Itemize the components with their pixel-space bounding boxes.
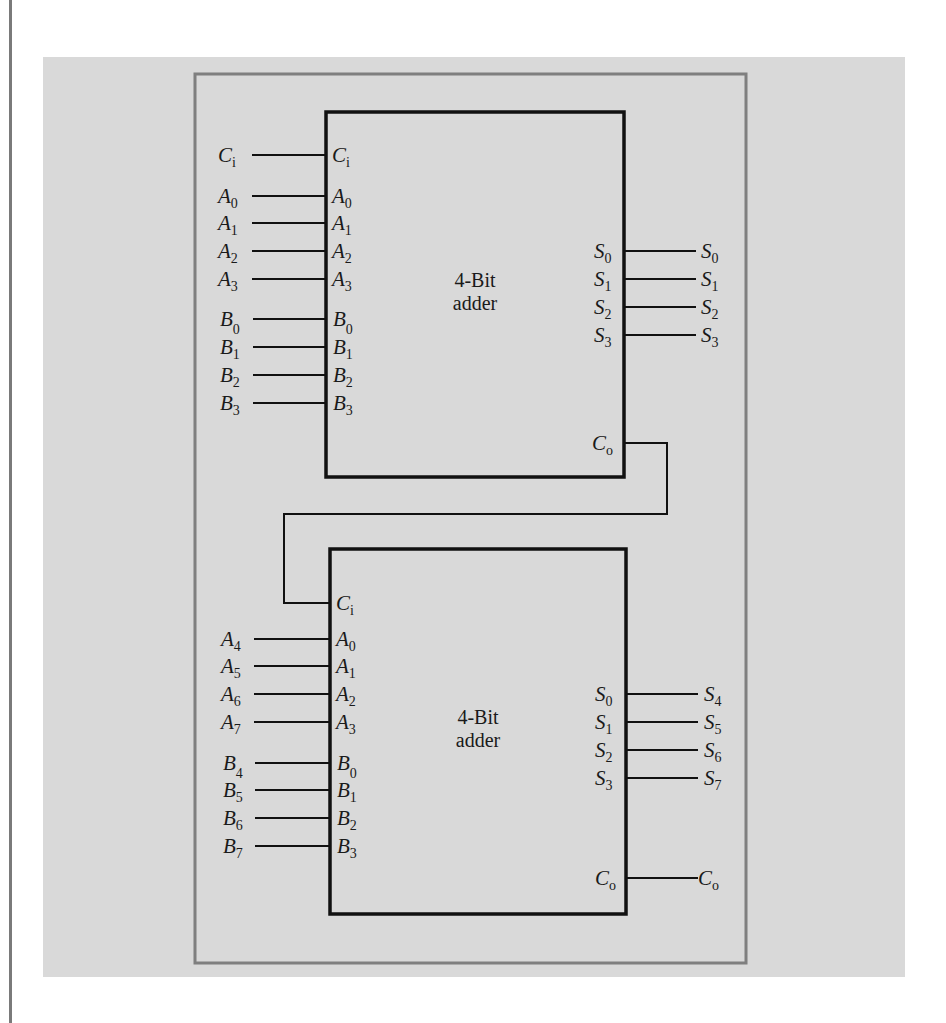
adder-high-title-line2: adder [456, 729, 501, 751]
pin-s2: S2 [594, 295, 612, 322]
pin-b1-high: B1 [337, 778, 357, 805]
pin-a2: A2 [330, 239, 352, 266]
pin-a1: A1 [330, 211, 352, 238]
label-s5-out: S5 [704, 710, 722, 737]
pin-s0-high: S0 [595, 682, 613, 709]
label-a6-in: A6 [219, 682, 241, 709]
label-s2-out: S2 [701, 295, 719, 322]
pin-s3-high: S3 [595, 766, 613, 793]
pin-a0-high: A0 [334, 627, 356, 654]
adder-high-title-line1: 4-Bit [457, 706, 499, 728]
label-b2-in: B2 [220, 363, 240, 390]
adder-high-external-inputs: A4 A5 A6 A7 B4 B5 B6 B7 [219, 627, 243, 861]
pin-co-high: Co [595, 866, 616, 893]
adder-low-external-inputs: Ci A0 A1 A2 A3 B0 B1 B2 B3 [216, 143, 240, 418]
label-s3-out: S3 [701, 323, 719, 350]
label-b6-in: B6 [223, 806, 243, 833]
label-s7-out: S7 [704, 766, 722, 793]
pin-co: Co [592, 431, 613, 458]
label-a5-in: A5 [219, 654, 241, 681]
adder-low-outputs: S0 S1 S2 S3 S0 S1 S2 S3 Co [592, 239, 719, 458]
pin-s1-high: S1 [595, 710, 613, 737]
label-s0-out: S0 [701, 239, 719, 266]
adder-low-title-line2: adder [453, 292, 498, 314]
label-b5-in: B5 [223, 778, 243, 805]
label-a2-in: A2 [216, 239, 238, 266]
adder-low-output-wires [624, 251, 696, 335]
label-s1-out: S1 [701, 267, 719, 294]
label-a7-in: A7 [219, 710, 241, 737]
pin-s0: S0 [594, 239, 612, 266]
pin-b2: B2 [333, 363, 353, 390]
label-b4-in: B4 [223, 751, 243, 781]
adder-low-block: 4-Bit adder Ci A0 A1 A2 A3 [216, 112, 719, 477]
pin-b0-high: B0 [337, 751, 357, 781]
adder-high-output-wires [626, 694, 698, 878]
label-s4-out: S4 [704, 682, 722, 709]
pin-a0: A0 [330, 184, 352, 211]
pin-a3: A3 [330, 267, 352, 294]
pin-b1: B1 [333, 335, 353, 362]
pin-b0: B0 [333, 307, 353, 337]
label-b1-in: B1 [220, 335, 240, 362]
adder-high-input-wires [254, 639, 330, 846]
pin-s1: S1 [594, 267, 612, 294]
label-a3-in: A3 [216, 267, 238, 294]
pin-ci: Ci [332, 143, 350, 170]
label-co-out: Co [698, 866, 719, 893]
carry-link-wire [284, 443, 667, 603]
pin-ci-high: Ci [336, 591, 354, 618]
label-b0-in: B0 [220, 307, 240, 337]
label-a4-in: A4 [219, 627, 241, 654]
label-b7-in: B7 [223, 834, 243, 861]
adder-low-title-line1: 4-Bit [454, 269, 496, 291]
adder-low-input-pins: Ci A0 A1 A2 A3 B0 B1 B2 B3 [330, 143, 353, 418]
adder-high-outputs: S0 S1 S2 S3 S4 S5 S6 S7 Co Co [595, 682, 722, 893]
label-ci-in: Ci [218, 143, 236, 170]
adder-high-input-pins: Ci A0 A1 A2 A3 B0 B1 B2 B3 [334, 591, 357, 861]
pin-a3-high: A3 [334, 710, 356, 737]
outer-frame [195, 74, 746, 963]
pin-b3-high: B3 [337, 834, 357, 861]
label-a0-in: A0 [216, 184, 238, 211]
pin-b2-high: B2 [337, 806, 357, 833]
adder-low-input-wires [252, 155, 326, 403]
label-a1-in: A1 [216, 211, 238, 238]
pin-b3: B3 [333, 391, 353, 418]
pin-a2-high: A2 [334, 682, 356, 709]
label-s6-out: S6 [704, 738, 722, 765]
label-b3-in: B3 [220, 391, 240, 418]
pin-a1-high: A1 [334, 654, 356, 681]
pin-s2-high: S2 [595, 738, 613, 765]
cascaded-8-bit-adder-diagram: 4-Bit adder Ci A0 A1 A2 A3 [0, 0, 946, 1023]
pin-s3: S3 [594, 323, 612, 350]
